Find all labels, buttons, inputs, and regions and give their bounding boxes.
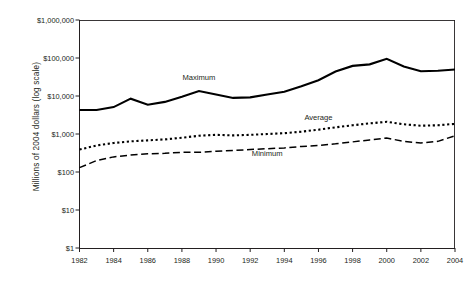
series-line-average	[80, 122, 456, 150]
plot-area	[0, 0, 476, 292]
series-label-minimum: Minimum	[252, 149, 283, 158]
series-label-average: Average	[304, 113, 332, 122]
series-label-maximum: Maximum	[183, 73, 216, 82]
chart-container: Millions of 2004 dollars (log scale) $1,…	[0, 0, 476, 292]
y-axis-ticks	[76, 20, 80, 248]
series-line-maximum	[80, 59, 456, 110]
